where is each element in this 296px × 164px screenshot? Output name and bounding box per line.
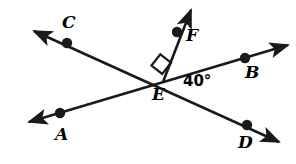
angle-label-40: 40° [183, 74, 211, 89]
point-label-e: E [152, 86, 165, 103]
point-label-a: A [55, 126, 68, 143]
point-dot-a [55, 108, 65, 118]
point-label-b: B [245, 64, 259, 81]
point-dot-d [242, 120, 252, 130]
point-label-f: F [186, 27, 198, 44]
point-dot-f [172, 27, 182, 37]
point-dot-c [62, 38, 72, 48]
point-label-c: C [62, 14, 76, 31]
geometry-diagram-canvas: C F B A D E 40° [0, 0, 296, 164]
point-label-d: D [238, 134, 253, 151]
